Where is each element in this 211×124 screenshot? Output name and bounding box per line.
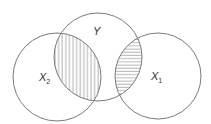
label-y: Y xyxy=(93,25,101,37)
label-x2: X2 xyxy=(38,71,50,85)
venn-diagram: Y X2 X1 xyxy=(0,0,211,124)
label-x1: X1 xyxy=(150,70,162,84)
